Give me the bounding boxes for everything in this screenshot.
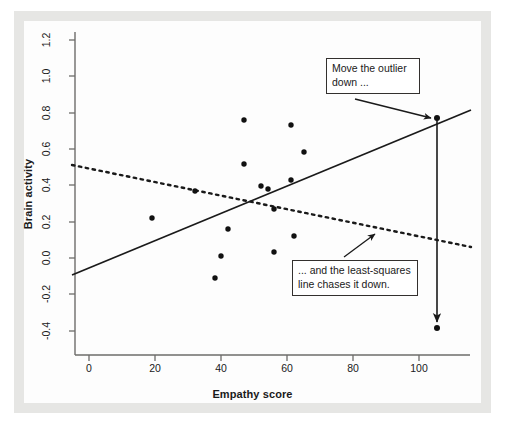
y-tick-label-0-2: 0.2	[40, 202, 52, 242]
data-point	[212, 275, 217, 280]
y-tick-label-0-0: 0.0	[40, 238, 52, 278]
x-tick-label-60: 60	[267, 362, 307, 374]
x-tick-label-100: 100	[399, 362, 439, 374]
y-tick-label-0-8: 0.8	[40, 93, 52, 133]
y-axis-ticks	[69, 40, 75, 331]
y-tick-label-1-2: 1.2	[40, 20, 52, 60]
data-point	[291, 233, 296, 238]
data-point	[149, 215, 154, 220]
data-point	[288, 122, 293, 127]
y-tick-label-1-0: 1.0	[40, 56, 52, 96]
data-point	[288, 177, 293, 182]
data-point	[225, 226, 230, 231]
data-point	[301, 149, 306, 154]
x-tick-label-0: 0	[69, 362, 109, 374]
leastsquares-callout-leader	[344, 234, 375, 257]
y-tick-label-0-6: 0.6	[40, 129, 52, 169]
data-point	[271, 249, 276, 254]
y-axis-title: Brain activity	[22, 104, 34, 284]
y-tick-label-0-4: 0.4	[40, 165, 52, 205]
outlier-callout-box: Move the outlier down ...	[326, 58, 420, 94]
x-tick-label-40: 40	[201, 362, 241, 374]
outlier-moved-point	[434, 325, 440, 331]
original-least-squares-line	[72, 110, 471, 275]
data-point	[218, 253, 223, 258]
data-point	[241, 161, 246, 166]
leastsquares-callout-box: ... and the least-squares line chases it…	[292, 260, 418, 296]
y-tick-label-neg-0-4: -0.4	[40, 311, 52, 351]
moved-least-squares-line	[72, 165, 471, 247]
figure-container: 0 20 40 60 80 100 1.2 1.0 0.8 0.6 0.4 0.…	[0, 0, 505, 424]
y-tick-label-neg-0-2: -0.2	[40, 274, 52, 314]
data-point	[192, 188, 197, 193]
data-point	[265, 186, 270, 191]
x-axis-title: Empathy score	[0, 388, 505, 400]
data-point-group	[149, 115, 440, 331]
x-tick-label-20: 20	[135, 362, 175, 374]
scatter-plot	[0, 0, 505, 424]
x-axis-ticks	[89, 355, 419, 361]
data-point	[241, 117, 246, 122]
data-point	[258, 183, 263, 188]
data-point	[271, 206, 276, 211]
x-tick-label-80: 80	[333, 362, 373, 374]
outlier-callout-leader	[355, 99, 431, 118]
